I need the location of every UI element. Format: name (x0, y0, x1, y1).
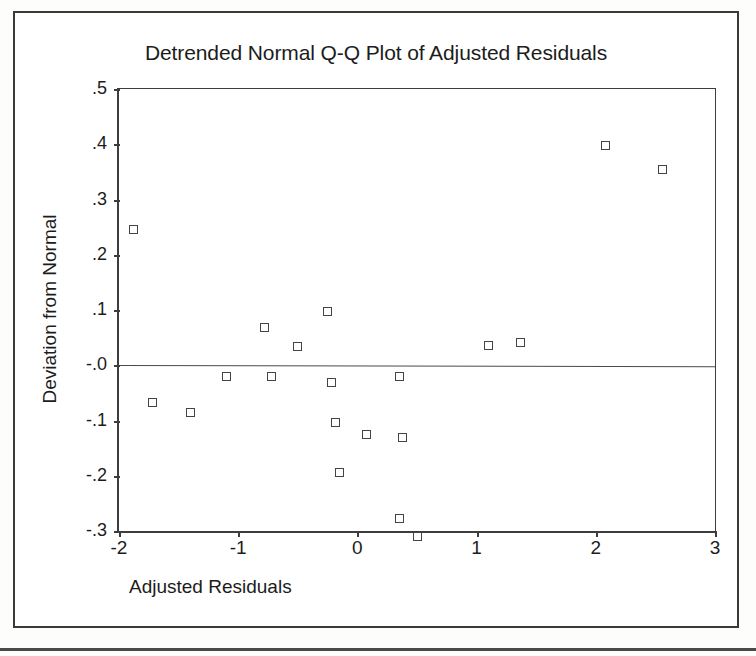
scatter-point (222, 372, 231, 381)
scatter-point (323, 307, 332, 316)
x-tick-label: -1 (208, 537, 268, 559)
y-tick (114, 144, 120, 146)
x-tick-label: 1 (447, 537, 507, 559)
scatter-point (395, 514, 404, 523)
chart-title: Detrended Normal Q-Q Plot of Adjusted Re… (13, 41, 739, 65)
scatter-point (484, 341, 493, 350)
x-tick-label: 2 (566, 537, 626, 559)
scatter-point (362, 430, 371, 439)
scatter-point (331, 418, 340, 427)
scatter-point (601, 141, 610, 150)
scatter-point (395, 372, 404, 381)
y-tick (114, 310, 120, 312)
scatter-point (398, 433, 407, 442)
x-tick-label: 3 (685, 537, 745, 559)
scatter-point (516, 338, 525, 347)
scatter-point (413, 532, 422, 541)
y-tick (114, 89, 120, 91)
y-tick (114, 200, 120, 202)
x-tick-label: -2 (89, 537, 149, 559)
x-axis-title: Adjusted Residuals (129, 576, 292, 598)
scatter-point (148, 398, 157, 407)
x-tick-label: 0 (327, 537, 387, 559)
scatter-point (293, 342, 302, 351)
y-tick (114, 421, 120, 423)
qq-plot-figure: Detrended Normal Q-Q Plot of Adjusted Re… (13, 11, 739, 628)
y-axis-title-label: Deviation from Normal (38, 215, 60, 404)
scanned-page: Detrended Normal Q-Q Plot of Adjusted Re… (0, 0, 756, 656)
scatter-point (267, 372, 276, 381)
y-tick (114, 365, 120, 367)
y-axis-title: Deviation from Normal (37, 88, 61, 530)
y-tick (114, 255, 120, 257)
scatter-point (327, 378, 336, 387)
scatter-point (658, 165, 667, 174)
scatter-point (335, 468, 344, 477)
zero-reference-line (119, 365, 715, 368)
page-bottom-rule (0, 648, 756, 651)
scatter-point (129, 225, 138, 234)
scatter-point (186, 408, 195, 417)
y-tick (114, 476, 120, 478)
plot-area: .5.4.3.2.1-.0-.1-.2-.3 -2-10123 (117, 88, 716, 533)
scatter-point (260, 323, 269, 332)
